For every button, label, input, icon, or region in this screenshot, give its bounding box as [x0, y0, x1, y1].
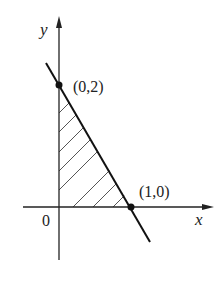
coordinate-diagram: y x 0 (0,2) (1,0) — [0, 0, 222, 288]
point-label-0-2: (0,2) — [73, 78, 104, 96]
y-axis-arrow-icon — [56, 16, 62, 28]
y-axis — [56, 16, 62, 260]
x-axis-label: x — [194, 210, 203, 229]
shaded-region — [59, 13, 213, 207]
point-1-0 — [128, 204, 135, 211]
y-axis-label: y — [38, 20, 48, 39]
x-axis-arrow-icon — [202, 204, 214, 210]
origin-label: 0 — [42, 212, 50, 229]
point-label-1-0: (1,0) — [139, 183, 170, 201]
point-0-2 — [56, 82, 63, 89]
x-axis — [23, 204, 214, 210]
